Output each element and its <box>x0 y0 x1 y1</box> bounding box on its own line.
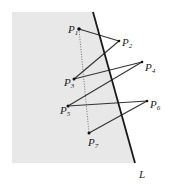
label-p2: P2 <box>121 36 133 50</box>
label-line-L: L <box>138 168 145 180</box>
label-p6: P6 <box>149 98 161 112</box>
label-p4: P4 <box>144 61 156 75</box>
polygonal-path-diagram: P1 P2 P3 P4 P5 P6 P7 L <box>0 0 169 184</box>
